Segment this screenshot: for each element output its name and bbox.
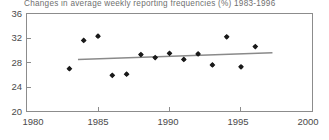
data-point-core (225, 35, 229, 39)
trend-line-group (78, 53, 272, 60)
data-point-core (211, 63, 215, 67)
data-point-core (182, 58, 186, 62)
data-point-core (110, 73, 114, 77)
data-point-core (196, 52, 200, 56)
data-point-core (153, 56, 157, 60)
data-point-core (139, 53, 143, 57)
data-point-core (239, 65, 243, 69)
data-point-core (82, 39, 86, 43)
data-point-core (253, 45, 257, 49)
trend-line (78, 53, 272, 60)
data-point-core (96, 34, 100, 38)
data-point-core (68, 67, 72, 71)
chart-container: Changes in average weekly reporting freq… (0, 0, 329, 140)
plot-area (0, 0, 329, 140)
data-point-core (168, 51, 172, 55)
data-point-core (125, 72, 129, 76)
data-points-group (67, 33, 259, 78)
